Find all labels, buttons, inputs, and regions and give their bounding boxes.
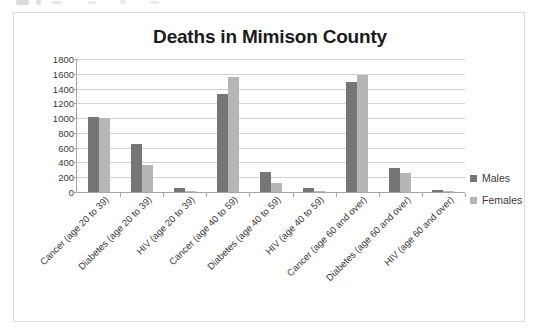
bar-females[interactable] [99, 118, 110, 192]
legend-entry-males[interactable]: Males [470, 173, 530, 184]
y-tick-label: 1000 [34, 114, 74, 123]
bar-males[interactable] [174, 188, 185, 192]
legend-swatch-icon [470, 175, 477, 182]
bar-males[interactable] [432, 190, 443, 192]
bar-males[interactable] [346, 82, 357, 192]
chart-legend: MalesFemales [470, 173, 530, 217]
y-tick-label: 1600 [34, 69, 74, 78]
legend-swatch-icon [470, 197, 477, 204]
y-tick-label: 400 [34, 158, 74, 167]
bar-males[interactable] [389, 168, 400, 192]
plot-area [76, 59, 465, 193]
y-tick-mark [73, 192, 77, 193]
bar-group [206, 59, 249, 192]
bar-females[interactable] [400, 173, 411, 192]
chart-container: Deaths in Mimison County 180016001400120… [13, 12, 525, 322]
bar-group [163, 59, 206, 192]
bar-group [249, 59, 292, 192]
y-tick-label: 1800 [34, 55, 74, 64]
y-axis: 180016001400120010008006004002000 [34, 59, 74, 192]
legend-label: Males [482, 173, 510, 184]
bar-females[interactable] [357, 75, 368, 192]
bar-males[interactable] [303, 188, 314, 192]
bar-group [77, 59, 120, 192]
bar-females[interactable] [271, 183, 282, 192]
bar-group [293, 59, 336, 192]
bar-females[interactable] [443, 191, 454, 192]
y-tick-label: 0 [34, 188, 74, 197]
scan-artifacts [0, 0, 539, 10]
x-tick-label: Diabetes (age 20 to 39) [76, 194, 154, 272]
bar-females[interactable] [314, 191, 325, 192]
bar-group [422, 59, 465, 192]
bar-group [336, 59, 379, 192]
x-tick-label: Cancer (age 60 and over) [285, 194, 369, 278]
bar-females[interactable] [185, 191, 196, 192]
bar-females[interactable] [228, 77, 239, 192]
y-tick-label: 1400 [34, 84, 74, 93]
x-tick-label: Cancer (age 20 to 39) [37, 194, 110, 267]
y-tick-label: 200 [34, 173, 74, 182]
bar-males[interactable] [131, 144, 142, 192]
x-tick-label: Diabetes (age 40 to 59) [205, 194, 283, 272]
y-tick-label: 1200 [34, 99, 74, 108]
plot-wrapper: 180016001400120010008006004002000 Cancer… [14, 13, 526, 323]
bar-females[interactable] [142, 165, 153, 192]
bar-males[interactable] [217, 94, 228, 192]
y-tick-label: 800 [34, 128, 74, 137]
legend-entry-females[interactable]: Females [470, 195, 530, 206]
bar-males[interactable] [260, 172, 271, 192]
x-axis: Cancer (age 20 to 39)Diabetes (age 20 to… [76, 194, 476, 319]
bar-group [120, 59, 163, 192]
bar-group [379, 59, 422, 192]
x-tick-label: Diabetes (age 60 and over) [323, 194, 412, 283]
bar-males[interactable] [88, 117, 99, 192]
y-tick-label: 600 [34, 143, 74, 152]
legend-label: Females [482, 195, 522, 206]
